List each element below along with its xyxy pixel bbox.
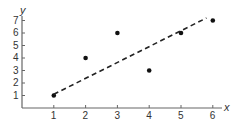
x-tick-label: 6 xyxy=(210,111,216,121)
scatter-chart: 1234561234567xy xyxy=(0,0,237,127)
y-tick-label: 4 xyxy=(13,53,19,63)
y-tick-label: 3 xyxy=(13,66,19,76)
y-tick-label: 7 xyxy=(13,16,19,26)
x-tick-label: 4 xyxy=(146,111,152,121)
data-point xyxy=(211,18,216,23)
y-axis-label: y xyxy=(20,5,26,16)
y-tick-label: 2 xyxy=(13,78,19,88)
data-point xyxy=(115,31,120,36)
y-tick-label: 5 xyxy=(13,41,19,51)
data-point xyxy=(83,56,88,61)
y-tick-label: 1 xyxy=(13,91,19,101)
x-tick-label: 5 xyxy=(178,111,184,121)
x-tick-label: 3 xyxy=(114,111,120,121)
x-tick-label: 1 xyxy=(51,111,57,121)
plot-area xyxy=(0,0,237,127)
trend-line xyxy=(54,18,207,94)
y-tick-label: 6 xyxy=(13,28,19,38)
x-axis-label: x xyxy=(224,102,230,113)
data-point xyxy=(147,68,152,73)
x-tick-label: 2 xyxy=(83,111,89,121)
